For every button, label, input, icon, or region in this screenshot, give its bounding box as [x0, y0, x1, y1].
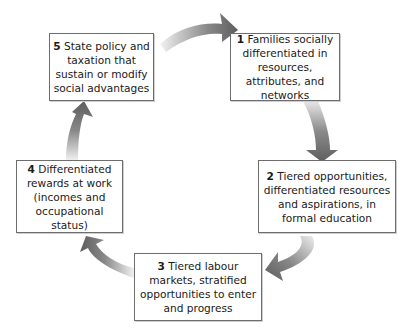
- step-1-number: 1: [237, 33, 244, 45]
- step-4-number: 4: [27, 163, 34, 175]
- step-box-5: 5 State policy and taxation that sustain…: [49, 33, 154, 101]
- step-1-label: Families socially differentiated in reso…: [243, 33, 334, 101]
- step-box-4: 4 Differentiated rewards at work (income…: [16, 160, 123, 233]
- step-5-label: State policy and taxation that sustain o…: [54, 40, 150, 94]
- arrow-4-to-5: [66, 101, 93, 160]
- step-box-1: 1 Families socially differentiated in re…: [230, 33, 340, 101]
- arrow-5-to-1: [160, 13, 238, 52]
- step-2-text: 2 Tiered opportunities, differentiated r…: [261, 169, 393, 225]
- arrow-2-to-3: [265, 236, 314, 281]
- step-2-number: 2: [267, 170, 274, 182]
- step-box-3: 3 Tiered labour markets, stratified oppo…: [134, 253, 262, 321]
- step-4-text: 4 Differentiated rewards at work (income…: [19, 162, 120, 232]
- step-5-text: 5 State policy and taxation that sustain…: [52, 39, 151, 95]
- step-1-text: 1 Families socially differentiated in re…: [233, 32, 337, 102]
- step-2-label: Tiered opportunities, differentiated res…: [264, 170, 391, 224]
- step-5-number: 5: [53, 40, 60, 52]
- step-3-number: 3: [158, 260, 165, 272]
- step-box-2: 2 Tiered opportunities, differentiated r…: [258, 160, 396, 233]
- step-4-label: Differentiated rewards at work (incomes …: [27, 163, 112, 231]
- arrow-3-to-4: [80, 236, 134, 278]
- step-3-text: 3 Tiered labour markets, stratified oppo…: [137, 259, 259, 315]
- arrow-1-to-2: [303, 101, 338, 162]
